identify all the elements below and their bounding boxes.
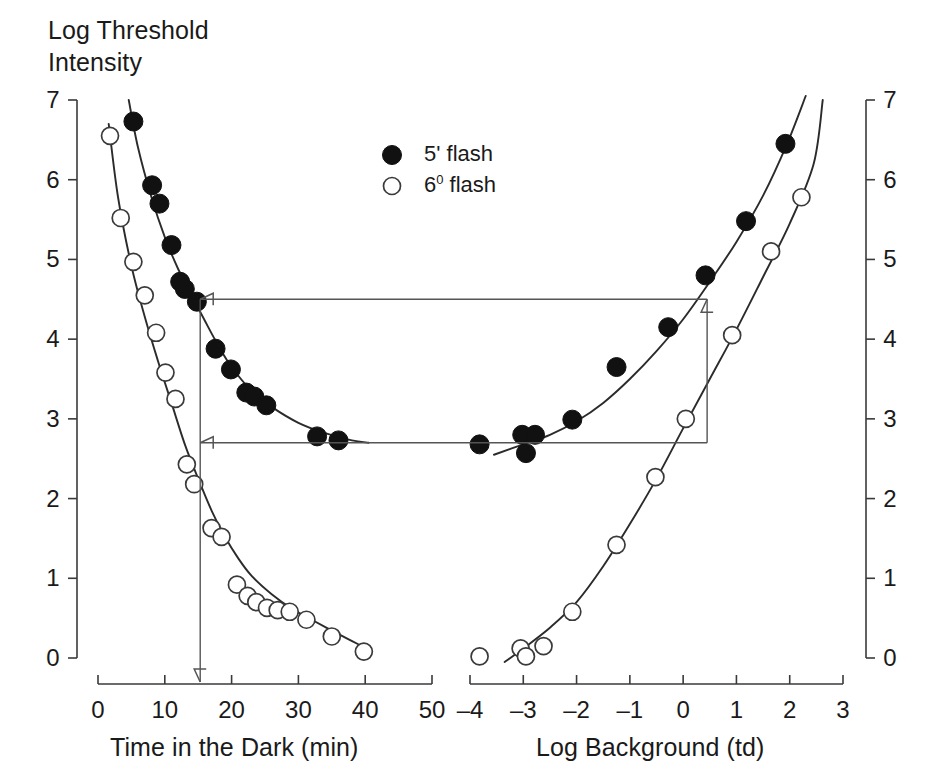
x-tick-label-dark-adaptation: 0 <box>91 696 104 724</box>
data-point-open <box>355 643 372 660</box>
y-tick-label-left: 7 <box>46 86 59 114</box>
data-point-filled <box>563 410 582 429</box>
data-point-open <box>125 253 142 270</box>
data-point-filled <box>143 176 162 195</box>
y-tick-label-right: 1 <box>883 564 896 592</box>
data-point-open <box>298 611 315 628</box>
data-point-open <box>281 603 298 620</box>
data-point-filled <box>696 266 715 285</box>
data-point-filled <box>221 360 240 379</box>
fit-curve-threshold-vs-intensity <box>494 96 806 455</box>
data-point-open <box>157 364 174 381</box>
data-point-filled <box>187 292 206 311</box>
y-tick-label-right: 6 <box>883 166 896 194</box>
y-tick-label-right: 4 <box>883 325 896 353</box>
x-tick-label-threshold-vs-intensity: –3 <box>510 696 537 724</box>
figure-root: Log Threshold Intensity Time in the Dark… <box>0 0 941 774</box>
x-axis-title-right: Log Background (td) <box>536 733 764 762</box>
x-tick-label-threshold-vs-intensity: 2 <box>783 696 796 724</box>
data-point-open <box>763 243 780 260</box>
y-axis-title: Log Threshold Intensity <box>48 14 209 78</box>
legend-text-6deg-suffix: flash <box>443 172 496 197</box>
x-tick-label-threshold-vs-intensity: –2 <box>563 696 590 724</box>
data-point-open <box>323 628 340 645</box>
data-point-filled <box>206 339 225 358</box>
x-tick-label-threshold-vs-intensity: –1 <box>616 696 643 724</box>
legend-label-6deg-flash: 60 flash <box>424 172 496 198</box>
data-point-open <box>677 410 694 427</box>
y-tick-label-left: 2 <box>46 485 59 513</box>
data-point-filled <box>607 358 626 377</box>
data-point-filled <box>470 435 489 454</box>
data-point-open <box>724 327 741 344</box>
data-point-open <box>178 456 195 473</box>
x-tick-label-dark-adaptation: 50 <box>419 696 446 724</box>
legend-text-5min: 5' flash <box>424 141 493 166</box>
data-point-open <box>102 127 119 144</box>
data-point-filled <box>659 318 678 337</box>
data-point-filled <box>124 112 143 131</box>
data-point-open <box>136 287 153 304</box>
legend-marker-open-circle <box>384 178 401 195</box>
legend-marker-filled-circle <box>383 146 402 165</box>
data-point-open <box>517 648 534 665</box>
x-tick-label-threshold-vs-intensity: 0 <box>676 696 689 724</box>
y-tick-label-left: 4 <box>46 325 59 353</box>
y-tick-label-right: 3 <box>883 405 896 433</box>
y-tick-label-right: 0 <box>883 644 896 672</box>
data-point-filled <box>737 212 756 231</box>
legend-text-6deg-base: 6 <box>424 172 436 197</box>
data-point-open <box>793 189 810 206</box>
x-tick-label-dark-adaptation: 10 <box>151 696 178 724</box>
data-point-filled <box>329 431 348 450</box>
data-point-filled <box>150 194 169 213</box>
y-tick-label-left: 6 <box>46 166 59 194</box>
x-tick-label-threshold-vs-intensity: 3 <box>836 696 849 724</box>
data-point-open <box>167 390 184 407</box>
legend-label-5min-flash: 5' flash <box>424 141 493 167</box>
data-point-open <box>471 648 488 665</box>
y-tick-label-right: 7 <box>883 86 896 114</box>
x-tick-label-dark-adaptation: 30 <box>285 696 312 724</box>
x-tick-label-dark-adaptation: 20 <box>218 696 245 724</box>
data-point-open <box>213 528 230 545</box>
y-tick-label-left: 0 <box>46 644 59 672</box>
x-tick-label-dark-adaptation: 40 <box>352 696 379 724</box>
y-tick-label-right: 5 <box>883 245 896 273</box>
data-point-open <box>564 603 581 620</box>
data-point-open <box>647 469 664 486</box>
fit-curve-threshold-vs-intensity <box>505 100 823 662</box>
y-tick-label-left: 3 <box>46 405 59 433</box>
data-point-filled <box>776 134 795 153</box>
data-point-filled <box>516 444 535 463</box>
y-tick-label-right: 2 <box>883 485 896 513</box>
data-point-filled <box>526 425 545 444</box>
x-tick-label-threshold-vs-intensity: –4 <box>457 696 484 724</box>
fit-curve-dark-adaptation <box>109 124 362 646</box>
data-point-filled <box>257 396 276 415</box>
data-point-open <box>112 209 129 226</box>
data-point-open <box>148 324 165 341</box>
data-point-open <box>608 536 625 553</box>
data-point-open <box>535 638 552 655</box>
y-tick-label-left: 5 <box>46 245 59 273</box>
x-axis-title-left: Time in the Dark (min) <box>110 733 359 762</box>
data-point-filled <box>162 236 181 255</box>
y-tick-label-left: 1 <box>46 564 59 592</box>
plot-canvas <box>0 0 941 774</box>
x-tick-label-threshold-vs-intensity: 1 <box>730 696 743 724</box>
